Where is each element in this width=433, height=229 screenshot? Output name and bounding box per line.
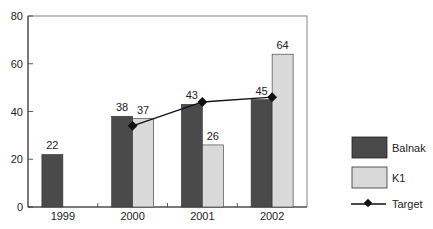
legend: Balnak K1 Target [351,137,426,210]
data-label: 43 [186,89,198,101]
bar-balnak [251,100,272,207]
bar-k1 [272,54,293,207]
bar-k1 [133,119,154,207]
data-label: 22 [46,139,58,151]
x-tick-label: 2001 [190,210,214,222]
legend-label-target: Target [392,198,423,210]
legend-swatch-k1 [352,167,387,188]
x-tick-label: 1999 [51,210,75,222]
y-tick-label: 60 [11,58,23,70]
legend-swatch-balnak [352,137,387,158]
y-tick-label: 20 [11,153,23,165]
data-label: 38 [116,101,128,113]
bar-k1 [202,145,223,207]
y-tick-label: 40 [11,106,23,118]
bar-balnak [181,104,202,207]
data-label: 45 [256,85,268,97]
legend-marker-target-icon [364,199,372,207]
bar-line-chart: 0204060801999200020012002 22383743264564… [0,0,433,229]
legend-label-k1: K1 [392,172,405,184]
y-tick-label: 0 [17,201,23,213]
bar-balnak [42,154,63,207]
bars [42,54,293,207]
x-tick-label: 2002 [260,210,284,222]
data-label: 26 [207,130,219,142]
data-label: 37 [137,104,149,116]
y-tick-label: 80 [11,10,23,22]
legend-label-balnak: Balnak [392,142,426,154]
x-tick-label: 2000 [120,210,144,222]
data-label: 64 [277,39,289,51]
bar-balnak [112,116,133,207]
